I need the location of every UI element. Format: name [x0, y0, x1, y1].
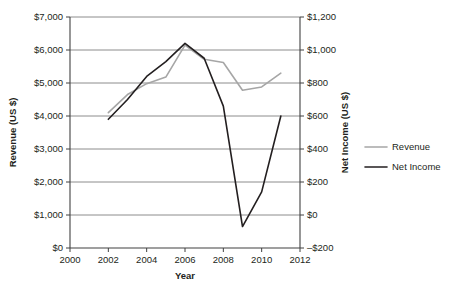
chart-container: 2000200220042006200820102012 $0$1,000$2,… [0, 0, 451, 294]
x-tick-label: 2006 [174, 254, 195, 265]
y2-tick-label: $200 [307, 176, 328, 187]
y2-tick-label: $800 [307, 77, 328, 88]
y-axis-title: Revenue (US $) [7, 98, 18, 168]
chart-legend: RevenueNet Income [365, 141, 441, 172]
y-tick-label: $7,000 [34, 11, 63, 22]
y2-axis-title: Net Income (US $) [339, 92, 350, 173]
y2-tick-label: $400 [307, 143, 328, 154]
axes [70, 17, 300, 248]
y-tick-label: $4,000 [34, 110, 63, 121]
x-tick-label: 2002 [98, 254, 119, 265]
x-axis-ticks: 2000200220042006200820102012 [59, 248, 310, 265]
y-axis-right-ticks: –$200$0$200$400$600$800$1,000$1,200 [300, 11, 336, 253]
data-series [108, 43, 280, 226]
x-tick-label: 2000 [59, 254, 80, 265]
y-tick-label: $5,000 [34, 77, 63, 88]
y-tick-label: $2,000 [34, 176, 63, 187]
y-tick-label: $1,000 [34, 209, 63, 220]
y2-tick-label: $0 [307, 209, 318, 220]
gridlines [70, 17, 300, 215]
y-tick-label: $3,000 [34, 143, 63, 154]
x-tick-label: 2010 [251, 254, 272, 265]
y2-tick-label: $600 [307, 110, 328, 121]
series-line-net-income [108, 43, 280, 226]
x-tick-label: 2008 [213, 254, 234, 265]
y-tick-label: $0 [52, 242, 63, 253]
legend-label-net-income: Net Income [392, 161, 441, 172]
series-line-revenue [108, 45, 280, 113]
x-tick-label: 2004 [136, 254, 157, 265]
y-tick-label: $6,000 [34, 44, 63, 55]
legend-label-revenue: Revenue [392, 141, 430, 152]
y2-tick-label: –$200 [307, 242, 333, 253]
x-axis-title: Year [175, 270, 195, 281]
y2-tick-label: $1,000 [307, 44, 336, 55]
line-chart-figure: 2000200220042006200820102012 $0$1,000$2,… [0, 0, 451, 294]
x-tick-label: 2012 [289, 254, 310, 265]
y2-tick-label: $1,200 [307, 11, 336, 22]
y-axis-left-ticks: $0$1,000$2,000$3,000$4,000$5,000$6,000$7… [34, 11, 70, 253]
